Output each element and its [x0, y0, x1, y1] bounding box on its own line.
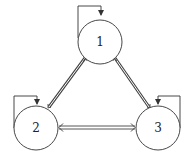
node-3-label: 3 — [154, 121, 162, 135]
node-1: 1 — [78, 20, 122, 64]
arrowhead-icon — [59, 124, 63, 132]
node-2: 2 — [14, 106, 58, 150]
node-2-label: 2 — [32, 121, 40, 135]
edge-1-3 — [113, 57, 150, 108]
state-diagram: 1 2 3 — [0, 0, 192, 165]
edge-2-3 — [59, 124, 135, 132]
arrowhead-icon — [131, 124, 135, 132]
node-1-label: 1 — [96, 35, 104, 49]
node-3: 3 — [136, 106, 180, 150]
edge-1-2 — [48, 57, 87, 108]
